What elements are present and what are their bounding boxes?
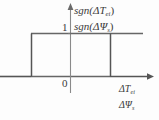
x-axis-label-torque-subscript: ei	[130, 88, 134, 95]
x-axis-label-flux-error: ΔΨs	[119, 100, 134, 110]
y-axis-tick-label-one: 1	[62, 22, 68, 33]
x-axis-label-flux-text: ΔΨ	[119, 99, 132, 110]
output-label-flux-text: sgn(ΔΨ	[74, 20, 107, 32]
output-label-torque-close: )	[110, 4, 114, 16]
output-label-torque-text: sgn(ΔT	[74, 4, 106, 16]
x-axis-label-torque-text: ΔT	[119, 83, 130, 94]
hysteresis-comparator-figure: sgn(ΔTei) sgn(ΔΨs) 1 0 ΔTei ΔΨs	[0, 0, 159, 120]
output-label-flux: sgn(ΔΨs)	[74, 21, 113, 32]
output-label-torque-subscript: ei	[106, 10, 111, 17]
x-axis-label-torque-error: ΔTei	[119, 84, 135, 94]
x-axis-arrowhead	[147, 73, 154, 80]
hysteresis-plot-svg	[0, 0, 159, 120]
output-label-flux-subscript: s	[107, 26, 110, 33]
output-label-torque: sgn(ΔTei)	[74, 5, 114, 16]
origin-label-zero: 0	[62, 78, 68, 89]
y-axis-arrowhead	[68, 3, 74, 10]
x-axis-label-flux-subscript: s	[132, 104, 134, 111]
output-label-flux-close: )	[110, 20, 114, 32]
